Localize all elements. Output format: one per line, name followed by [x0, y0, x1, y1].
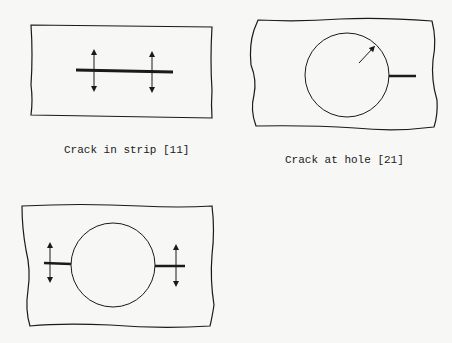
radius-arrow-icon: [359, 48, 373, 63]
hole-panel: [250, 18, 437, 129]
hole: [305, 33, 389, 117]
caption-hole: Crack at hole [21]: [285, 154, 404, 166]
strip-panel: [31, 25, 212, 118]
double-crack-panel: [22, 205, 214, 328]
crack-line: [76, 70, 173, 72]
caption-strip: Crack in strip [11]: [64, 144, 189, 156]
crack-line: [44, 263, 71, 264]
hole: [71, 223, 155, 307]
plate-outline: [250, 18, 437, 129]
diagram-canvas: [0, 0, 452, 343]
